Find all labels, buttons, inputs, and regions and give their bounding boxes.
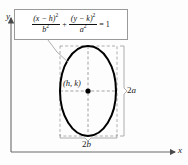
equation-x-numerator-exponent: 2 [55,13,58,19]
equation-y-numerator-exponent: 2 [93,13,96,19]
equation-y-denominator-exponent: 2 [84,23,87,29]
ellipse-equation: (x − h)2 b2 + (y − k)2 a2 = 1 [31,15,112,33]
x-axis-label: x [178,146,182,155]
equation-leader-line [48,40,68,62]
equation-equals: = 1 [99,20,110,29]
dimension-2b-variable: b [87,139,92,149]
equation-y-numerator: (y − k) [71,14,93,23]
equation-x-numerator: (x − h) [33,14,55,23]
ellipse-figure: (x − h)2 b2 + (y − k)2 a2 = 1 y x (h, k)… [0,0,188,165]
center-point [85,88,90,93]
equation-x-denominator-exponent: 2 [46,23,49,29]
dimension-label-2a: 2a [127,86,136,95]
dimension-2a-variable: a [132,85,137,95]
y-axis-label: y [6,12,10,21]
dimension-label-2b: 2b [82,140,91,149]
equation-operator: + [62,20,67,29]
equation-term-y: (y − k)2 a2 [69,15,97,33]
equation-term-x: (x − h)2 b2 [32,15,60,33]
center-coordinates-label: (h, k) [63,79,81,88]
equation-box: (x − h)2 b2 + (y − k)2 a2 = 1 [14,9,128,40]
dimension-brace-vertical [120,46,127,136]
